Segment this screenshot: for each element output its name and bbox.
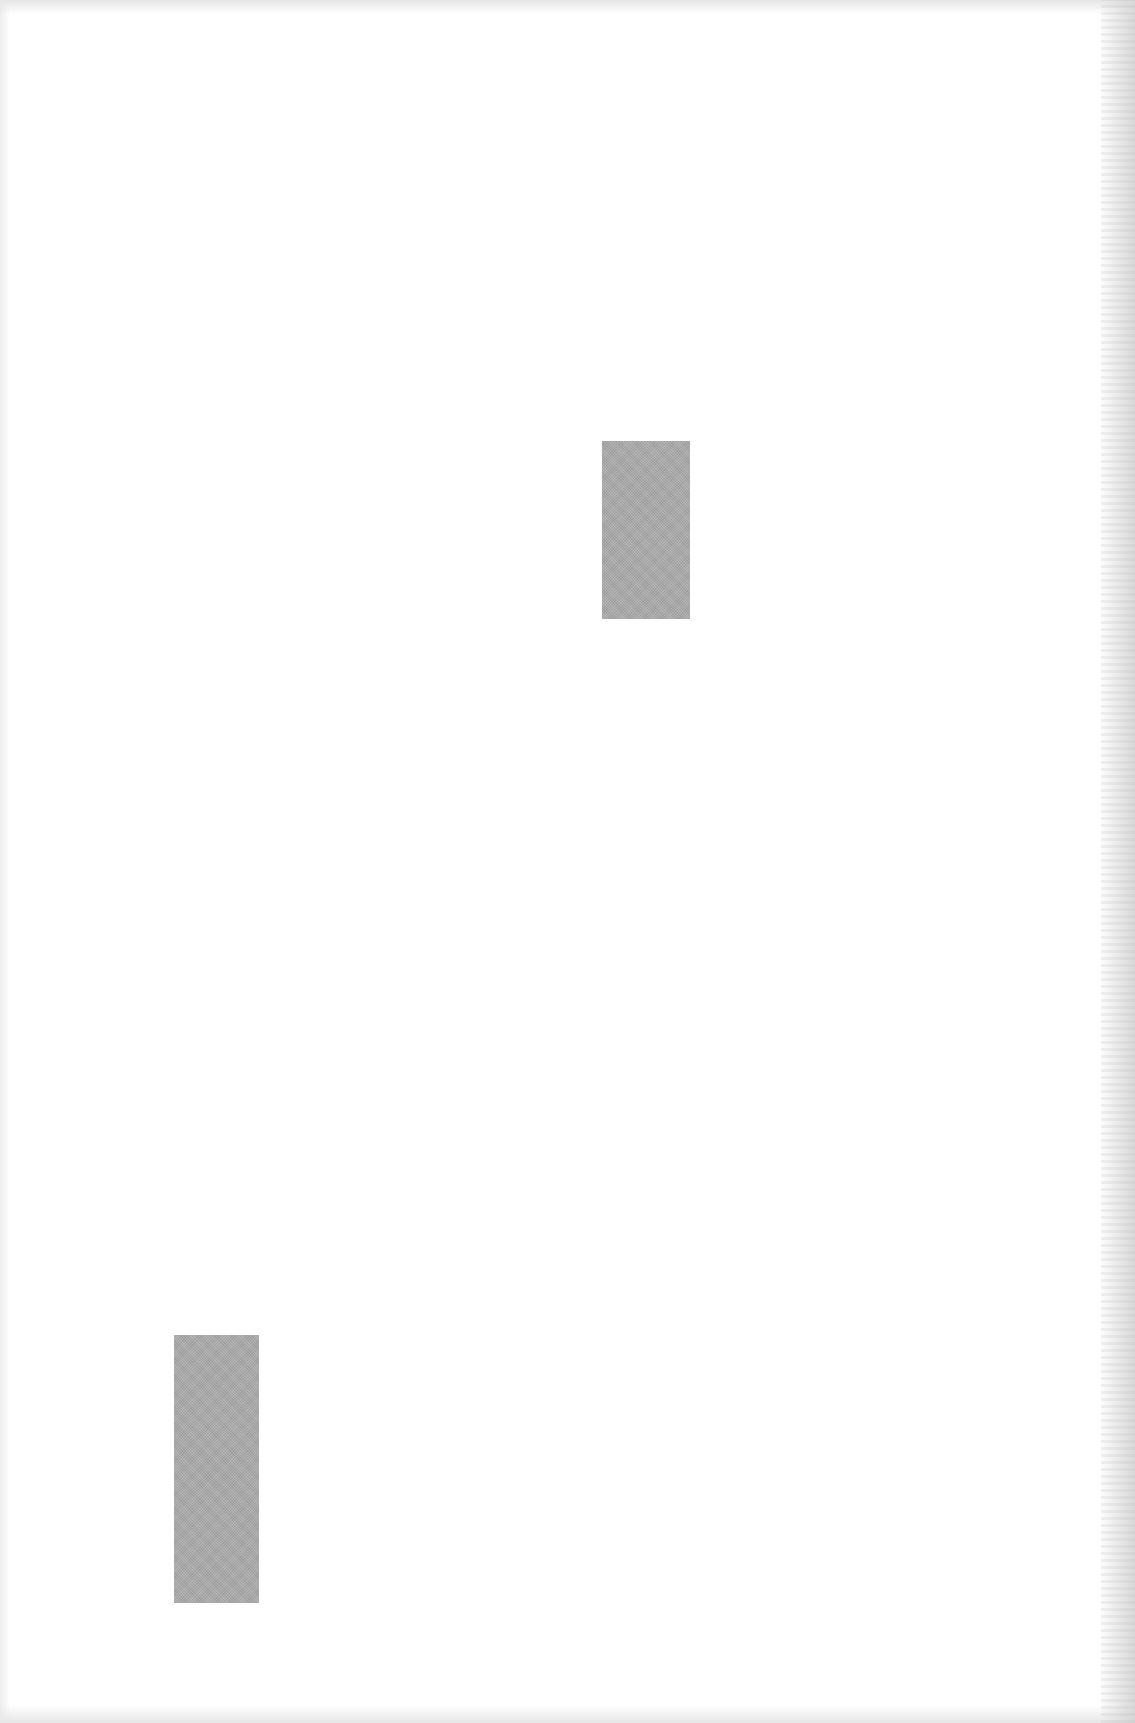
scan-edge-top	[0, 0, 1135, 14]
scanned-page	[0, 0, 1135, 1723]
gray-block-lower	[174, 1335, 259, 1603]
scan-edge-bottom	[0, 1705, 1135, 1723]
gray-block-upper	[602, 441, 690, 619]
scan-edge-right	[1101, 0, 1135, 1723]
scan-edge-left	[0, 0, 10, 1723]
